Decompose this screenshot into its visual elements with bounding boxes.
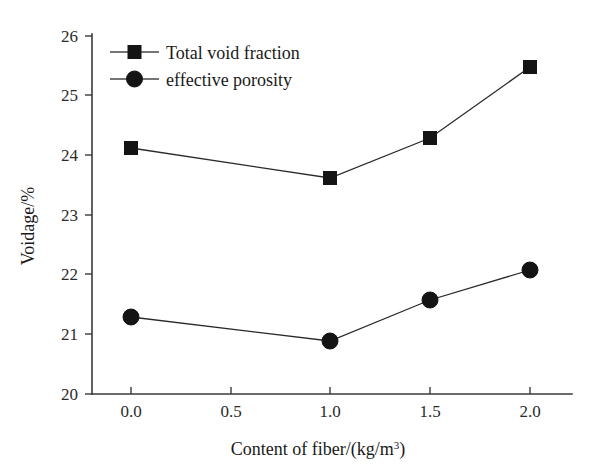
data-point-marker — [125, 142, 138, 155]
y-tick-marks — [85, 36, 92, 394]
y-tick-label-23: 23 — [61, 206, 78, 225]
chart-legend: Total void fraction effective porosity — [110, 43, 300, 90]
line-chart: 26 25 24 23 22 21 20 0.0 0.5 1.0 1.5 2.0… — [0, 0, 598, 469]
data-point-marker — [322, 333, 338, 349]
y-tick-label-22: 22 — [61, 265, 78, 284]
legend-item-total-void-fraction[interactable]: Total void fraction — [110, 43, 300, 63]
data-point-marker — [424, 132, 437, 145]
data-point-marker — [522, 262, 538, 278]
x-tick-labels: 0.0 0.5 1.0 1.5 2.0 — [120, 402, 540, 421]
data-point-marker — [524, 61, 537, 74]
y-tick-labels: 26 25 24 23 22 21 20 — [61, 27, 79, 404]
x-tick-marks — [131, 387, 530, 394]
x-tick-label-2-0: 2.0 — [519, 402, 540, 421]
y-tick-label-20: 20 — [61, 385, 78, 404]
x-tick-label-1-5: 1.5 — [419, 402, 440, 421]
x-axis-title-end: ) — [399, 439, 405, 460]
data-point-marker — [324, 172, 337, 185]
series-effective-porosity — [123, 262, 538, 349]
x-tick-label-0-0: 0.0 — [120, 402, 141, 421]
chart-figure: 26 25 24 23 22 21 20 0.0 0.5 1.0 1.5 2.0… — [0, 0, 598, 469]
x-axis-title: Content of fiber/(kg/m3) — [231, 439, 405, 460]
data-point-marker — [422, 292, 438, 308]
x-axis-title-main: Content of fiber/(kg/m — [231, 439, 394, 460]
legend-square-marker-icon — [128, 46, 141, 59]
x-tick-label-1-0: 1.0 — [319, 402, 340, 421]
y-tick-label-25: 25 — [61, 86, 78, 105]
series-line-effective-porosity — [131, 270, 530, 341]
y-axis-title: Voidage/% — [18, 187, 38, 266]
legend-label-effective-porosity: effective porosity — [166, 70, 292, 90]
y-tick-label-26: 26 — [61, 27, 78, 46]
legend-label-total-void-fraction: Total void fraction — [166, 43, 300, 63]
data-point-marker — [123, 309, 139, 325]
y-tick-label-21: 21 — [61, 325, 78, 344]
legend-item-effective-porosity[interactable]: effective porosity — [110, 70, 292, 90]
x-tick-label-0-5: 0.5 — [220, 402, 241, 421]
legend-circle-marker-icon — [127, 71, 143, 87]
y-tick-label-24: 24 — [61, 146, 79, 165]
